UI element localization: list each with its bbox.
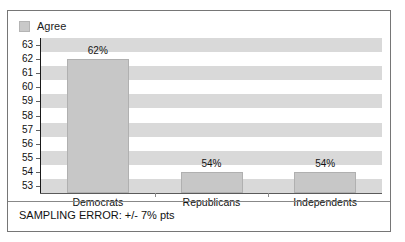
bar-value-label: 62% [68,46,128,56]
y-tick-mark [36,130,40,131]
y-tick-label: 60 [22,82,33,92]
x-tick-mark [155,193,156,197]
y-tick-label: 54 [22,167,33,177]
bar-republicans [181,172,243,193]
y-tick-label: 55 [22,153,33,163]
y-tick-mark [36,101,40,102]
legend-swatch-agree-icon [19,21,30,32]
y-tick-label: 59 [22,96,33,106]
y-tick-mark [36,144,40,145]
y-tick-label: 62 [22,54,33,64]
bar-value-label: 54% [295,159,355,169]
y-tick-label: 56 [22,139,33,149]
x-tick-mark [268,193,269,197]
bar-value-label: 54% [182,159,242,169]
y-tick-label: 57 [22,125,33,135]
x-category-label: Republicans [155,196,269,208]
x-axis: DemocratsRepublicansIndependents [41,196,382,210]
legend: Agree [19,19,66,33]
footer-divider [8,201,390,202]
y-tick-label: 61 [22,68,33,78]
x-category-label: Democrats [41,196,155,208]
y-tick-mark [36,158,40,159]
y-axis: 6362616059585756555453 [16,38,36,193]
bar-democrats [67,59,129,193]
y-tick-mark [36,59,40,60]
chart-frame: Agree 6362616059585756555453 62%54%54% D… [7,10,391,232]
y-tick-label: 53 [22,181,33,191]
legend-label-agree: Agree [37,21,66,32]
y-tick-label: 63 [22,40,33,50]
plot-area: 62%54%54% [41,38,382,193]
bar-independents [294,172,356,193]
cropped-title-text: PEW RESEARCH CENTER SURVEY [6,0,238,2]
y-tick-label: 58 [22,111,33,121]
y-tick-mark [36,87,40,88]
y-tick-mark [36,73,40,74]
x-category-label: Independents [268,196,382,208]
chart-screenshot: PEW RESEARCH CENTER SURVEY Agree 6362616… [0,0,405,242]
y-tick-mark [36,186,40,187]
plot-wrap: 6362616059585756555453 62%54%54% Democra… [16,38,382,193]
sampling-error-note: SAMPLING ERROR: +/- 7% pts [19,209,175,222]
y-tick-mark [36,45,40,46]
y-tick-mark [36,172,40,173]
cropped-title: PEW RESEARCH CENTER SURVEY [6,0,238,6]
y-tick-mark [36,116,40,117]
x-axis-line [40,193,382,194]
